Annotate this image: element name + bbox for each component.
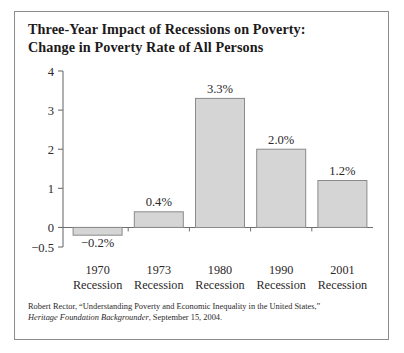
bar-chart-plot: 43210−0.5−0.2%1970Recession0.4%1973Reces…: [15, 12, 390, 341]
y-axis-tick-label: 4: [48, 65, 55, 79]
x-axis-category-label: Recession: [256, 278, 305, 292]
y-axis-tick-label: 3: [48, 104, 54, 118]
x-axis-category-label: Recession: [73, 278, 122, 292]
source-publication: Heritage Foundation Backgrounder: [28, 313, 149, 322]
x-axis-category-label: 1970: [85, 263, 109, 277]
bar: [73, 227, 122, 235]
x-axis-category-label: 1990: [269, 263, 293, 277]
bar-value-label: 1.2%: [329, 164, 356, 178]
source-line-1: Robert Rector, “Understanding Poverty an…: [28, 301, 380, 312]
x-axis-category-label: Recession: [195, 278, 244, 292]
x-axis-category-label: 1980: [208, 263, 232, 277]
x-axis-category-label: Recession: [318, 278, 367, 292]
bar-value-label: −0.2%: [81, 236, 115, 250]
bar: [257, 149, 306, 227]
bar: [134, 212, 183, 228]
y-axis-tick-label: −0.5: [31, 241, 54, 255]
bar: [196, 98, 245, 227]
source-note: Robert Rector, “Understanding Poverty an…: [28, 301, 380, 324]
source-date: , September 15, 2004.: [149, 313, 223, 322]
x-axis-category-label: 1973: [147, 263, 171, 277]
y-axis-tick-label: 1: [48, 182, 54, 196]
bar: [318, 181, 367, 228]
bar-value-label: 2.0%: [268, 133, 295, 147]
x-axis-category-label: 2001: [330, 263, 354, 277]
bar-value-label: 3.3%: [207, 82, 234, 96]
x-axis-category-label: Recession: [134, 278, 183, 292]
y-axis-tick-label: 0: [48, 221, 54, 235]
bar-value-label: 0.4%: [146, 195, 173, 209]
y-axis-tick-label: 2: [48, 143, 54, 157]
source-line-2: Heritage Foundation Backgrounder, Septem…: [28, 312, 380, 323]
figure-frame: Three-Year Impact of Recessions on Pover…: [14, 11, 389, 340]
